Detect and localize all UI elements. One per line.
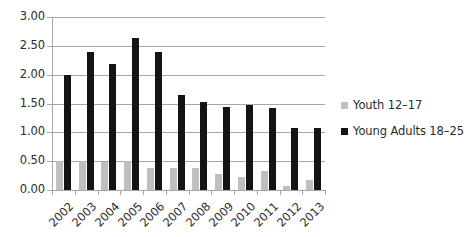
bar-2003-series1	[79, 161, 86, 190]
y-tick-label: 2.00	[1, 69, 45, 81]
y-tick-label: 1.50	[1, 98, 45, 110]
x-tick-label: 2012	[275, 201, 304, 230]
y-tick-label: 2.50	[1, 40, 45, 52]
bar-2006-series2	[155, 52, 162, 190]
bar-2012-series1	[283, 186, 290, 190]
y-tick-mark	[47, 132, 52, 133]
x-tick-label: 2008	[184, 201, 213, 230]
bar-2010-series1	[238, 177, 245, 190]
bar-2006-series1	[147, 168, 154, 190]
x-tick-mark	[325, 191, 326, 195]
x-tick-label: 2004	[93, 201, 122, 230]
x-tick-mark	[211, 191, 212, 195]
y-tick-mark	[47, 104, 52, 105]
bar-2002-series2	[64, 75, 71, 190]
x-tick-mark	[302, 191, 303, 195]
y-tick-label: 0.00	[1, 184, 45, 196]
y-tick-mark	[47, 75, 52, 76]
x-tick-mark	[52, 191, 53, 195]
y-tick-label: 3.00	[1, 11, 45, 23]
bar-2004-series1	[101, 162, 108, 190]
x-tick-mark	[143, 191, 144, 195]
bar-2010-series2	[246, 105, 253, 190]
legend-item-2[interactable]: Young Adults 18–25	[341, 126, 461, 138]
y-tick-mark	[47, 17, 52, 18]
legend-swatch-icon	[341, 102, 348, 109]
bar-2012-series2	[291, 128, 298, 190]
x-tick-label: 2013	[298, 201, 327, 230]
bar-2011-series2	[269, 108, 276, 190]
bar-2007-series2	[178, 95, 185, 190]
x-tick-mark	[189, 191, 190, 195]
bar-2004-series2	[109, 64, 116, 190]
chart-legend: Youth 12–17Young Adults 18–25	[341, 100, 461, 151]
x-tick-mark	[234, 191, 235, 195]
legend-label: Youth 12–17	[353, 100, 422, 112]
plot-area	[52, 17, 325, 190]
y-tick-mark	[47, 161, 52, 162]
x-tick-mark	[257, 191, 258, 195]
bar-2005-series1	[124, 161, 131, 190]
bar-2005-series2	[132, 38, 139, 190]
y-axis-labels: 0.000.501.001.502.002.503.00	[0, 0, 45, 237]
bar-2011-series1	[261, 171, 268, 190]
y-tick-label: 0.50	[1, 155, 45, 167]
x-tick-mark	[166, 191, 167, 195]
bar-2008-series2	[200, 102, 207, 190]
bar-2002-series1	[56, 161, 63, 190]
bar-2013-series1	[306, 180, 313, 190]
y-tick-mark	[47, 46, 52, 47]
x-tick-mark	[75, 191, 76, 195]
y-tick-mark	[47, 190, 52, 191]
x-tick-mark	[120, 191, 121, 195]
x-tick-mark	[280, 191, 281, 195]
legend-label: Young Adults 18–25	[353, 126, 464, 138]
bar-2009-series1	[215, 174, 222, 190]
bar-2009-series2	[223, 107, 230, 190]
y-tick-label: 1.00	[1, 126, 45, 138]
legend-swatch-icon	[341, 128, 348, 135]
bar-2008-series1	[192, 168, 199, 190]
x-tick-mark	[98, 191, 99, 195]
bar-2007-series1	[170, 168, 177, 190]
bar-2013-series2	[314, 128, 321, 190]
legend-item-1[interactable]: Youth 12–17	[341, 100, 461, 112]
bar-2003-series2	[87, 52, 94, 190]
